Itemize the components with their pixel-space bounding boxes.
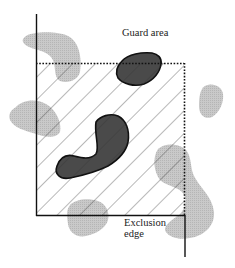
light-blob-right-small	[199, 84, 223, 117]
exclusion-edge-label-line1: Exclusion	[124, 217, 166, 228]
exclusion-edge-label-line2: edge	[124, 228, 144, 239]
guard-area-diagram	[0, 0, 235, 268]
guard-area-label: Guard area	[122, 27, 168, 38]
